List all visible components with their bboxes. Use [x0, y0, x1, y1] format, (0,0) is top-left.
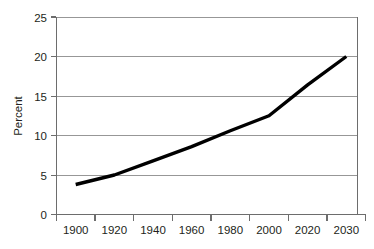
x-tick-label-2030: 2030	[334, 224, 360, 236]
y-tick-label-20: 20	[34, 51, 47, 63]
y-tick-label-10: 10	[34, 130, 47, 142]
x-tick-labels: 1900 1920 1940 1960 1980 2000 2020 2030	[63, 224, 359, 236]
y-tick-label-25: 25	[34, 12, 47, 24]
y-axis-ticks	[51, 17, 56, 215]
y-axis-title: Percent	[12, 95, 24, 135]
x-tick-label-1980: 1980	[218, 224, 244, 236]
x-tick-label-1960: 1960	[179, 224, 205, 236]
x-tick-label-1920: 1920	[102, 224, 128, 236]
x-axis-ticks	[57, 215, 366, 221]
y-tick-label-5: 5	[41, 170, 47, 182]
x-tick-label-2000: 2000	[256, 224, 282, 236]
x-tick-label-1940: 1940	[140, 224, 166, 236]
y-tick-label-15: 15	[34, 91, 47, 103]
x-tick-label-1900: 1900	[63, 224, 89, 236]
chart-canvas: 25 20 15 10 5 0 1900 1920 1940 1960 1980…	[0, 0, 374, 249]
y-tick-label-0: 0	[41, 209, 47, 221]
plot-area-background	[56, 17, 358, 215]
y-tick-labels: 25 20 15 10 5 0	[34, 12, 47, 222]
x-tick-label-2020: 2020	[295, 224, 321, 236]
line-chart: 25 20 15 10 5 0 1900 1920 1940 1960 1980…	[0, 0, 374, 249]
